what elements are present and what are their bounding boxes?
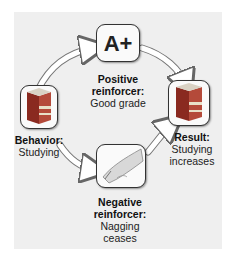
grade-a-plus-icon: A+ [97, 31, 139, 57]
book-icon [169, 81, 209, 125]
result-box [168, 80, 210, 126]
result-label: Result: Studying increases [164, 131, 220, 167]
positive-reinforcer-box: A+ [96, 24, 140, 62]
behavior-box [20, 85, 58, 129]
behavior-title: Behavior: [14, 134, 64, 146]
negative-reinforcer-label: Negative reinforcer: Nagging ceases [82, 196, 158, 244]
behavior-text: Studying [19, 146, 60, 158]
result-text-line2: increases [170, 155, 215, 167]
negative-title-line1: Negative [82, 196, 158, 208]
negative-reinforcer-box [96, 144, 146, 188]
positive-title-line2: reinforcer: [80, 85, 156, 97]
result-title: Result: [164, 131, 220, 143]
negative-text-line1: Nagging [100, 220, 139, 232]
negative-title-line2: reinforcer: [82, 208, 158, 220]
positive-title-line1: Positive [80, 73, 156, 85]
book-icon [21, 86, 57, 128]
behavior-label: Behavior: Studying [14, 134, 64, 158]
negative-text-line2: ceases [103, 232, 136, 244]
positive-text: Good grade [90, 97, 145, 109]
pointing-hand-icon [97, 145, 145, 187]
positive-reinforcer-label: Positive reinforcer: Good grade [80, 73, 156, 109]
result-text-line1: Studying [172, 143, 213, 155]
